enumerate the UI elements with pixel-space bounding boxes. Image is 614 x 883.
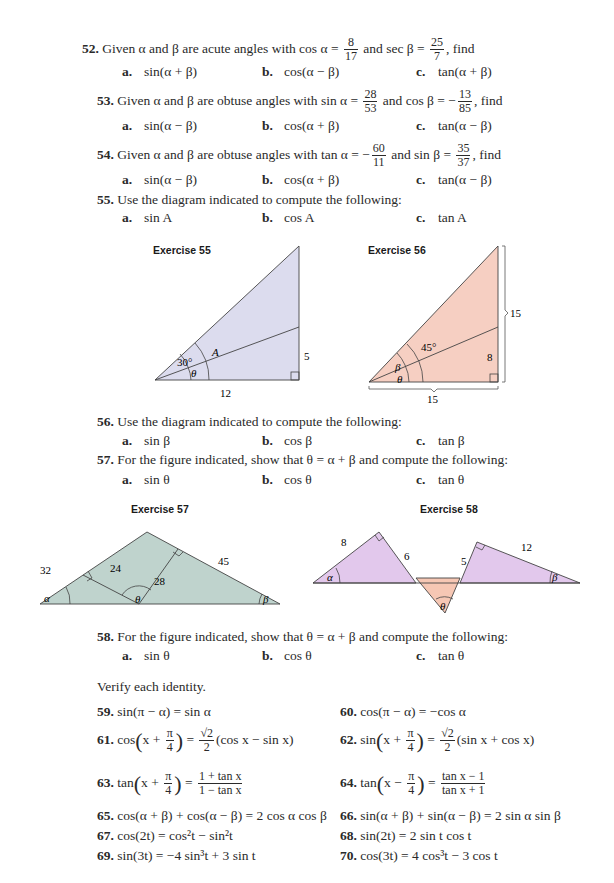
fraction: 1385: [458, 88, 472, 115]
figure-57-diagram: α θ β 32 24 28 45: [30, 515, 290, 610]
identity-number: 66.: [340, 808, 357, 823]
part-c: c.tan θ: [416, 472, 464, 488]
function-name: tan: [360, 775, 377, 790]
identity-61: 61. cos(x + π4) = √22(cos x − sin x): [97, 727, 293, 754]
part-label: b.: [262, 648, 284, 664]
part-b: b.cos β: [262, 433, 312, 449]
part-expression: tan β: [438, 433, 465, 448]
numerator: 25: [430, 36, 444, 50]
exercise-text: , find: [474, 93, 503, 108]
equals: =: [428, 775, 436, 790]
identity-expression: sin(3t) = −4 sin³t + 3 sin t: [117, 848, 255, 863]
part-c: c.tan A: [416, 210, 467, 226]
identity-expression: sin(α + β) + sin(α − β) = 2 sin α sin β: [360, 808, 561, 823]
part-expression: tan A: [438, 210, 467, 225]
part-a: a.sin(α − β): [122, 172, 197, 188]
angle-beta-label: β: [262, 593, 269, 605]
part-expression: tan θ: [438, 648, 464, 663]
figure-58-diagram: α β θ 8 6 5 12: [305, 515, 595, 615]
identity-number: 63.: [97, 775, 114, 790]
side-5-label: 5: [304, 350, 310, 362]
part-c: c.tan β: [416, 433, 465, 449]
exercise-number: 53.: [97, 93, 114, 108]
identity-expression: (cos x − sin x): [216, 732, 293, 747]
part-a: a.sin β: [122, 433, 170, 449]
denominator: tan x + 1: [441, 784, 485, 797]
part-expression: sin A: [144, 210, 172, 225]
fraction: π4: [407, 770, 415, 797]
fraction: π4: [164, 770, 172, 797]
part-expression: cos β: [284, 433, 312, 448]
denominator: 17: [344, 50, 358, 63]
paren: ): [174, 771, 181, 796]
exercise-number: 57.: [97, 452, 114, 467]
paren: ): [417, 771, 424, 796]
numerator: 13: [458, 88, 472, 102]
figure-56-diagram: β 45° θ 8 15 15: [365, 240, 535, 405]
part-b: b.cos(α + β): [262, 172, 339, 188]
part-label: c.: [416, 64, 438, 80]
part-expression: cos(α + β): [284, 118, 339, 133]
part-label: a.: [122, 210, 144, 226]
side-32-label: 32: [40, 564, 51, 576]
angle-theta-label: θ: [397, 373, 403, 385]
figure-55-diagram: 30° A θ 12 5: [150, 240, 310, 405]
exercise-number: 55.: [97, 192, 114, 207]
part-label: a.: [122, 64, 144, 80]
identity-number: 65.: [97, 808, 114, 823]
identity-68: 68. sin(2t) = 2 sin t cos t: [340, 828, 471, 844]
angle-beta-label: β: [394, 361, 401, 373]
part-label: b.: [262, 472, 284, 488]
angle-alpha-label: α: [44, 592, 50, 604]
function-name: cos: [117, 732, 135, 747]
exercise-number: 54.: [97, 147, 114, 162]
exercise-56: 56. Use the diagram indicated to compute…: [97, 414, 402, 430]
fraction: 3537: [456, 142, 470, 169]
numerator: √2: [199, 727, 214, 741]
part-c: c.tan(α − β): [416, 118, 492, 134]
part-a: a.sin θ: [122, 472, 170, 488]
side-24-label: 24: [110, 562, 122, 574]
part-expression: sin(α − β): [144, 118, 197, 133]
paren: (: [135, 728, 142, 753]
part-a: a.sin(α − β): [122, 118, 197, 134]
exercise-text: and sec β =: [363, 41, 424, 56]
side-12-label: 12: [521, 541, 532, 553]
part-expression: sin(α − β): [144, 172, 197, 187]
exercise-text: For the figure indicated, show that θ = …: [117, 629, 508, 644]
part-label: c.: [416, 433, 438, 449]
denominator: 2: [199, 741, 214, 754]
identity-number: 68.: [340, 828, 357, 843]
part-label: a.: [122, 172, 144, 188]
fraction: √22: [199, 727, 214, 754]
exercise-text: Use the diagram indicated to compute the…: [117, 414, 402, 429]
exercise-54: 54. Given α and β are obtuse angles with…: [97, 142, 501, 169]
numerator: π: [406, 727, 414, 741]
paren: ): [176, 728, 183, 753]
exercise-58: 58. For the figure indicated, show that …: [97, 629, 508, 645]
numerator: 28: [363, 88, 377, 102]
identity-66: 66. sin(α + β) + sin(α − β) = 2 sin α si…: [340, 808, 561, 824]
part-expression: tan(α − β): [438, 118, 492, 133]
denominator: 1 − tan x: [198, 784, 242, 797]
fraction: 1 + tan x1 − tan x: [198, 770, 242, 797]
fraction: 257: [430, 36, 444, 63]
identity-expression: cos(α + β) + cos(α − β) = 2 cos α cos β: [117, 808, 327, 823]
numerator: 1 + tan x: [198, 770, 242, 784]
numerator: π: [164, 770, 172, 784]
denominator: 4: [164, 784, 172, 797]
part-expression: tan(α + β): [438, 64, 492, 79]
exercise-text: Use the diagram indicated to compute the…: [117, 192, 402, 207]
identity-expression: cos(3t) = 4 cos³t − 3 cos t: [360, 848, 497, 863]
identity-number: 59.: [97, 704, 114, 719]
angle-alpha-label: α: [327, 571, 333, 583]
denominator: 11: [372, 156, 386, 169]
identity-number: 67.: [97, 828, 114, 843]
side-15-bottom-label: 15: [427, 393, 439, 405]
part-b: b.cos θ: [262, 648, 312, 664]
denominator: 7: [430, 50, 444, 63]
part-label: c.: [416, 210, 438, 226]
identity-expression: sin(2t) = 2 sin t cos t: [360, 828, 471, 843]
denominator: 4: [166, 741, 174, 754]
identity-67: 67. cos(2t) = cos²t − sin²t: [97, 828, 233, 844]
